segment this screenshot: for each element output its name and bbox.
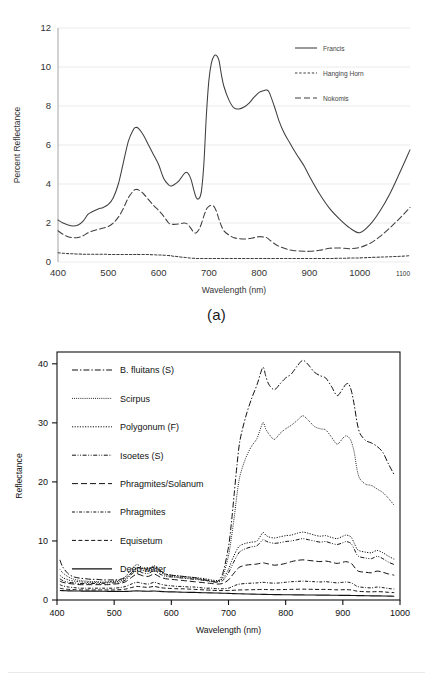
series-line-hanging-horn <box>58 253 410 259</box>
series-line-b-fluitans-s- <box>60 360 394 582</box>
x-tick-label-800: 800 <box>251 267 267 278</box>
x-tick-label-1100: 1100 <box>396 270 410 277</box>
panel-b-plot-frame <box>57 352 400 600</box>
y-tick-label-4: 4 <box>46 178 51 189</box>
panel-b-y-axis-label: Reflectance <box>14 453 24 499</box>
y-tick-label-10: 10 <box>40 61 51 72</box>
x-tick-label-700: 700 <box>221 608 236 618</box>
x-tick-label-400: 400 <box>50 267 66 278</box>
chart-panel-b: 0102030404005006007008009001000Wavelengt… <box>0 330 433 648</box>
x-tick-label-500: 500 <box>107 608 122 618</box>
series-line-phragmites <box>60 581 394 589</box>
legend-label-0: B. fluitans (S) <box>120 365 174 375</box>
series-line-nokomis <box>58 189 410 251</box>
x-tick-label-700: 700 <box>201 267 217 278</box>
y-tick-label-40: 40 <box>38 359 48 369</box>
panel-b-x-axis-label: Wavelength (nm) <box>196 625 261 635</box>
legend-label-2: Polygonum (F) <box>120 422 179 432</box>
x-tick-label-1000: 1000 <box>390 608 410 618</box>
panel-b-x-ticklabels: 4005006007008009001000 <box>49 608 410 618</box>
x-tick-label-600: 600 <box>164 608 179 618</box>
y-tick-label-20: 20 <box>38 477 48 487</box>
y-tick-label-6: 6 <box>46 139 51 150</box>
x-tick-label-800: 800 <box>278 608 293 618</box>
series-line-francis <box>58 55 410 233</box>
panel-a-y-ticklabels: 024681012 <box>40 22 51 267</box>
x-tick-label-1000: 1000 <box>349 267 370 278</box>
y-tick-label-2: 2 <box>46 217 51 228</box>
panel-a-x-axis-label: Wavelength (nm) <box>202 285 267 295</box>
figure-panel-a: 02468101240050060070080090010001100Wavel… <box>0 0 433 340</box>
y-tick-label-0: 0 <box>46 256 51 267</box>
series-line-scirpus <box>60 416 394 583</box>
y-tick-label-12: 12 <box>40 22 51 33</box>
y-tick-label-30: 30 <box>38 418 48 428</box>
legend-label-1: Scirpus <box>120 394 151 404</box>
legend-label-7: Deep water <box>120 564 166 574</box>
legend-label-6: Equisetum <box>120 536 163 546</box>
panel-b-legend: B. fluitans (S)ScirpusPolygonum (F)Isoet… <box>72 365 204 574</box>
panel-a-x-ticklabels: 40050060070080090010001100 <box>50 267 410 278</box>
panel-a-legend: FrancisHanging HornNokomis <box>295 45 364 102</box>
legend-label-2: Nokomis <box>323 95 349 102</box>
y-tick-label-10: 10 <box>38 536 48 546</box>
y-tick-label-0: 0 <box>43 595 48 605</box>
y-tick-label-8: 8 <box>46 100 51 111</box>
legend-label-0: Francis <box>323 45 345 52</box>
series-line-deep-water <box>60 591 394 597</box>
x-tick-label-900: 900 <box>301 267 317 278</box>
panel-a-caption: (a) <box>0 306 433 323</box>
chart-panel-a: 02468101240050060070080090010001100Wavel… <box>0 0 433 300</box>
x-tick-label-400: 400 <box>49 608 64 618</box>
legend-label-1: Hanging Horn <box>323 70 364 78</box>
legend-label-3: Isoetes (S) <box>120 451 164 461</box>
page-rule <box>8 672 425 673</box>
legend-label-4: Phragmites/Solanum <box>120 479 204 489</box>
panel-a-gridlines <box>58 28 410 262</box>
panel-a-y-axis-label: Percent Reflectance <box>12 106 22 183</box>
x-tick-label-500: 500 <box>100 267 116 278</box>
panel-b-series-group <box>60 360 394 596</box>
panel-b-y-ticklabels: 010203040 <box>38 359 48 605</box>
x-tick-label-600: 600 <box>151 267 167 278</box>
panel-a-series-group <box>58 55 410 259</box>
figure-panel-b: 0102030404005006007008009001000Wavelengt… <box>0 330 433 677</box>
x-tick-label-900: 900 <box>335 608 350 618</box>
legend-label-5: Phragmites <box>120 507 166 517</box>
